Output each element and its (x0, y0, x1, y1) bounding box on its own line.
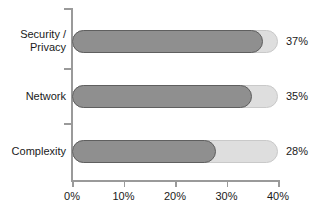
category-label-security-privacy-line1: Security / (20, 28, 66, 41)
category-label-network-line1: Network (26, 90, 66, 103)
horizontal-bar-chart: Security / Privacy Network Complexity 37… (0, 0, 318, 216)
x-axis-tick-0 (72, 180, 74, 187)
x-axis-label-30: 30% (207, 190, 247, 203)
x-axis-tick-10 (124, 180, 126, 187)
y-axis-tick-1 (64, 68, 72, 70)
x-axis-tick-20 (175, 180, 177, 187)
bar-value-complexity: 28% (286, 145, 308, 158)
category-label-complexity-line1: Complexity (12, 145, 66, 158)
bar-network[interactable] (72, 85, 252, 108)
category-label-security-privacy: Security / Privacy (20, 28, 66, 54)
bar-value-security-privacy: 37% (286, 35, 308, 48)
x-axis-tick-30 (227, 180, 229, 187)
x-axis-tick-40 (278, 180, 280, 187)
bar-complexity[interactable] (72, 140, 216, 163)
category-label-network: Network (26, 90, 66, 103)
y-axis-top-tick (64, 8, 72, 10)
x-axis-label-0: 0% (52, 190, 92, 203)
category-label-complexity: Complexity (12, 145, 66, 158)
x-axis-label-20: 20% (155, 190, 195, 203)
bar-value-network: 35% (286, 90, 308, 103)
bar-security-privacy[interactable] (72, 30, 263, 53)
x-axis-label-40: 40% (258, 190, 298, 203)
y-axis-tick-2 (64, 123, 72, 125)
category-label-security-privacy-line2: Privacy (20, 41, 66, 54)
x-axis-label-10: 10% (104, 190, 144, 203)
